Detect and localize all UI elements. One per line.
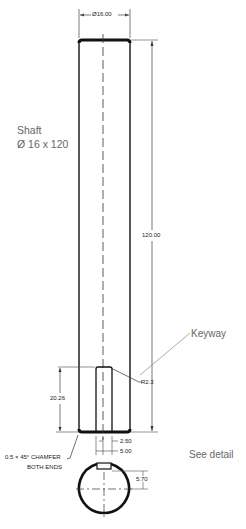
keyway-callout: Keyway: [191, 328, 226, 339]
diameter-label: Ø16.00: [92, 11, 112, 17]
shaft-body: [79, 40, 130, 432]
chamfer-leader: [67, 435, 78, 459]
keyway-width-label: 5.00: [120, 448, 132, 454]
part-title: Shaft Ø 16 x 120: [17, 123, 68, 151]
keyway-length-label: 20.26: [50, 395, 65, 401]
length-label: 120.00: [142, 232, 160, 238]
keyway-slot: [96, 367, 112, 432]
keyway-leader: [140, 333, 190, 375]
keyway-width-dimensions: [96, 436, 118, 455]
part-spec: Ø 16 x 120: [17, 137, 68, 151]
keyway-radius-label: R2.3: [141, 379, 154, 385]
see-detail-callout: See detail: [189, 449, 233, 460]
section-view: [76, 463, 148, 520]
part-name: Shaft: [17, 123, 68, 137]
keyway-depth-label: 5.70: [136, 476, 148, 482]
chamfer-note-line2: BOTH ENDS: [27, 464, 62, 470]
radius-leader: [111, 368, 142, 382]
chamfer-note-line1: 0.5 × 45° CHAMFER: [5, 454, 61, 460]
keyway-offset-label: 2.50: [120, 438, 132, 444]
